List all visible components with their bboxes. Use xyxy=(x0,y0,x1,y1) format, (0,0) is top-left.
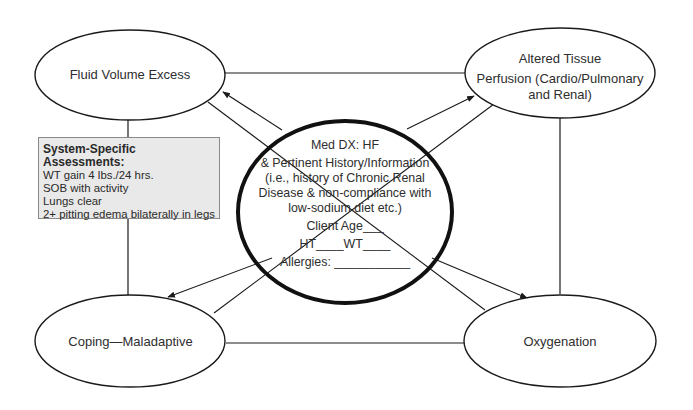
label-altered-tissue-perfusion: Altered Tissue Perfusion (Cardio/Pulmona… xyxy=(470,51,650,103)
assessment-item: Lungs clear xyxy=(43,195,215,208)
arrow-to-tissue-perfusion xyxy=(407,96,474,129)
assessment-item: SOB with activity xyxy=(43,182,215,195)
label-coping-maladaptive: Coping—Maladaptive xyxy=(38,334,223,350)
med-dx-title: Med DX: HF xyxy=(238,138,452,153)
assessment-item: WT gain 4 lbs./24 hrs. xyxy=(43,169,215,182)
tissue-perfusion-line3: and Renal) xyxy=(470,87,650,103)
history-line: low-sodium diet etc.) xyxy=(238,201,452,216)
label-oxygenation: Oxygenation xyxy=(470,334,650,350)
label-fluid-volume-excess: Fluid Volume Excess xyxy=(40,67,220,83)
height-weight-field: HT____WT____ xyxy=(238,237,452,252)
center-med-dx-text: Med DX: HF & Pertinent History/Informati… xyxy=(238,138,452,270)
allergies-field: Allergies: ___________ xyxy=(238,255,452,270)
assessments-title: System-Specific Assessments: xyxy=(43,143,215,169)
history-line: (i.e., history of Chronic Renal xyxy=(238,171,452,186)
assessment-item: 2+ pitting edema bilaterally in legs xyxy=(43,208,215,221)
arrow-to-fluid-volume xyxy=(223,92,282,130)
history-line: Disease & non-compliance with xyxy=(238,186,452,201)
system-specific-assessments-box: System-Specific Assessments: WT gain 4 l… xyxy=(38,137,220,219)
tissue-perfusion-line2: Perfusion (Cardio/Pulmonary xyxy=(470,71,650,87)
history-line: & Pertinent History/Information xyxy=(238,156,452,171)
client-age-field: Client Age___ xyxy=(238,219,452,234)
tissue-perfusion-line1: Altered Tissue xyxy=(470,51,650,67)
